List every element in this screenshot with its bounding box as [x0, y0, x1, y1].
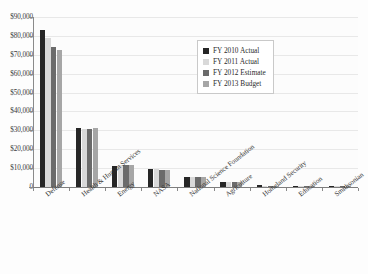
bar [184, 177, 189, 187]
bar [40, 30, 45, 187]
x-axis-tick-mark [105, 188, 106, 191]
y-axis-tick-mark [29, 74, 33, 75]
x-axis-tick-mark [250, 188, 251, 191]
bar-chart: 0$10,000$20,000$30,000$40,000$50,000$60,… [0, 0, 368, 274]
bar [45, 38, 50, 187]
x-axis-tick-mark [141, 188, 142, 191]
legend-swatch-icon [203, 70, 209, 76]
y-axis-tick-mark [29, 55, 33, 56]
bar-group [76, 17, 98, 187]
x-axis-tick-mark [322, 188, 323, 191]
y-axis-tick-mark [29, 149, 33, 150]
bar [57, 50, 62, 187]
bar [154, 169, 159, 187]
x-axis-tick-mark [286, 188, 287, 191]
bar [82, 129, 87, 187]
y-axis-tick-mark [29, 36, 33, 37]
x-axis-tick-mark [358, 188, 359, 191]
chart-legend: FY 2010 ActualFY 2011 ActualFY 2012 Esti… [197, 40, 274, 94]
legend-item-label: FY 2013 Budget [213, 78, 261, 89]
legend-swatch-icon [203, 81, 209, 87]
x-axis-tick-mark [69, 188, 70, 191]
bar-group [329, 17, 351, 187]
bar [87, 129, 92, 187]
legend-item[interactable]: FY 2012 Estimate [203, 67, 266, 78]
legend-item-label: FY 2010 Actual [213, 45, 259, 56]
y-axis: 0$10,000$20,000$30,000$40,000$50,000$60,… [0, 0, 33, 274]
y-axis-tick-mark [29, 187, 33, 188]
y-axis-tick-mark [29, 93, 33, 94]
legend-item[interactable]: FY 2013 Budget [203, 78, 266, 89]
bar [51, 47, 56, 187]
legend-item-label: FY 2012 Estimate [213, 67, 266, 78]
plot-area [33, 17, 358, 187]
legend-item[interactable]: FY 2011 Actual [203, 56, 266, 67]
y-axis-tick-mark [29, 168, 33, 169]
legend-item[interactable]: FY 2010 Actual [203, 45, 266, 56]
x-axis-tick-mark [214, 188, 215, 191]
bar [76, 128, 81, 187]
bar-group [148, 17, 170, 187]
y-axis-tick-mark [29, 130, 33, 131]
legend-swatch-icon [203, 48, 209, 54]
legend-item-label: FY 2011 Actual [213, 56, 259, 67]
y-axis-tick-mark [29, 17, 33, 18]
y-axis-line [33, 17, 34, 188]
x-axis-tick-mark [33, 188, 34, 191]
bar-group [40, 17, 62, 187]
y-axis-tick-mark [29, 111, 33, 112]
bar [148, 169, 153, 187]
x-axis-tick-mark [177, 188, 178, 191]
legend-swatch-icon [203, 59, 209, 65]
